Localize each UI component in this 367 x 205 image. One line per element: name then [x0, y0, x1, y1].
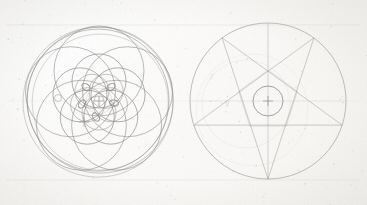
speckle: [81, 135, 82, 136]
speckle: [119, 114, 120, 115]
speckle: [238, 121, 240, 123]
speckle: [98, 4, 99, 5]
speckle: [112, 0, 113, 1]
speckle: [209, 52, 210, 53]
speckle: [276, 96, 277, 97]
speckle: [120, 2, 122, 4]
speckle: [12, 99, 13, 100]
speckle: [283, 138, 284, 139]
speckle: [221, 70, 222, 71]
speckle: [295, 87, 296, 88]
speckle: [80, 80, 81, 81]
speckle: [355, 95, 356, 96]
speckle: [329, 204, 330, 205]
speckle: [19, 79, 20, 80]
speckle: [69, 97, 70, 98]
speckle: [321, 145, 322, 146]
speckle: [65, 27, 66, 28]
speckle: [292, 87, 293, 88]
speckle: [32, 28, 33, 29]
speckle: [86, 80, 87, 81]
speckle: [241, 152, 243, 154]
speckle: [319, 31, 320, 32]
speckle: [23, 70, 24, 71]
speckle: [129, 98, 130, 99]
speckle: [308, 99, 309, 100]
speckle: [146, 142, 147, 143]
speckle: [150, 165, 152, 167]
speckle: [242, 27, 243, 28]
speckle: [83, 139, 84, 140]
speckle: [225, 103, 226, 104]
speckle: [170, 195, 171, 196]
speckle: [90, 160, 91, 161]
speckle: [82, 198, 83, 199]
speckle: [311, 133, 312, 134]
speckle: [361, 171, 362, 172]
speckle: [51, 18, 52, 19]
speckle: [230, 77, 231, 78]
speckle: [22, 88, 24, 90]
diagram-canvas: ♂♀: [0, 0, 367, 205]
speckle: [12, 35, 13, 36]
speckle: [116, 31, 118, 33]
speckle: [168, 39, 169, 40]
speckle: [67, 136, 68, 137]
speckle: [84, 132, 86, 134]
speckle: [254, 32, 255, 33]
speckle: [142, 10, 143, 11]
speckle: [59, 71, 60, 72]
speckle: [48, 0, 49, 1]
speckle: [111, 99, 112, 100]
speckle: [197, 133, 198, 134]
speckle: [327, 158, 328, 159]
speckle: [221, 161, 222, 162]
speckle: [97, 202, 98, 203]
speckle: [75, 92, 76, 93]
speckle: [230, 159, 231, 160]
speckle: [102, 76, 103, 77]
speckle: [304, 128, 306, 130]
speckle: [271, 201, 272, 202]
speckle: [199, 162, 200, 163]
speckle: [69, 122, 70, 123]
speckle: [57, 122, 58, 123]
speckle: [175, 199, 176, 200]
speckle: [69, 154, 71, 156]
speckle: [304, 183, 306, 185]
speckle: [302, 62, 303, 63]
speckle: [34, 140, 35, 141]
speckle: [218, 99, 219, 100]
speckle: [187, 93, 188, 94]
speckle: [225, 111, 227, 113]
speckle: [115, 93, 116, 94]
speckle: [312, 43, 313, 44]
speckle: [138, 147, 139, 148]
speckle: [5, 37, 6, 38]
speckle: [341, 174, 342, 175]
speckle: [288, 142, 289, 143]
speckle: [331, 145, 332, 146]
speckle: [310, 157, 311, 158]
speckle: [356, 190, 357, 191]
speckle: [185, 48, 187, 50]
speckle: [166, 108, 167, 109]
speckle: [41, 5, 42, 6]
speckle: [87, 170, 88, 171]
speckle: [45, 85, 46, 86]
speckle: [24, 0, 25, 1]
speckle: [159, 43, 160, 44]
speckle: [17, 108, 19, 110]
speckle: [76, 75, 77, 76]
speckle: [236, 62, 238, 64]
speckle: [22, 23, 24, 25]
speckle: [166, 63, 167, 64]
speckle: [230, 12, 232, 14]
speckle: [30, 12, 31, 13]
speckle: [124, 64, 125, 65]
speckle: [177, 29, 178, 30]
speckle: [75, 148, 76, 149]
speckle: [340, 98, 342, 100]
speckle: [95, 62, 96, 63]
speckle: [232, 171, 234, 173]
